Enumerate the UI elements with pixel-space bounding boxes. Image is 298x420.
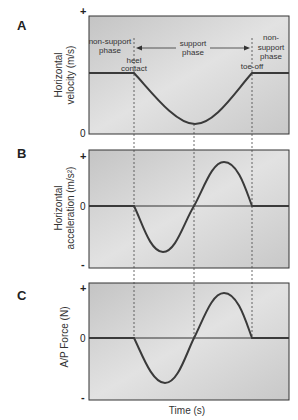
left-phase-label-line2: phase: [99, 46, 121, 55]
panel-a-plot-area: [89, 16, 289, 134]
panel-a: A + 0 Horizontal velocity (m/s) non-supp…: [17, 5, 289, 139]
panel-c-ylabel: A/P Force (N): [59, 307, 70, 368]
panel-a-ylabel-line2: velocity (m/s): [65, 46, 76, 105]
panel-b-plot-area: [89, 150, 289, 268]
panel-c-zero-tick: 0: [80, 333, 86, 344]
support-phase-label-line1: support: [180, 39, 207, 48]
support-phase-label-line2: phase: [182, 48, 204, 57]
panel-b-letter: B: [17, 146, 26, 161]
panel-c-plus-tick: +: [80, 282, 86, 294]
panel-c-minus-tick: -: [81, 391, 85, 403]
panel-b-ylabel-line1: Horizontal: [53, 185, 64, 230]
right-phase-label-line1: non-: [263, 33, 279, 42]
panel-b: B + 0 - Horizontal acceleration (m/s²): [17, 146, 289, 270]
right-phase-label-line2: support: [258, 43, 285, 52]
panel-c-plot-area: [89, 283, 289, 400]
right-phase-label-line3: phase: [260, 52, 282, 61]
x-axis-label: Time (s): [169, 405, 205, 416]
panel-a-ylabel-line1: Horizontal: [53, 52, 64, 97]
gait-diagram: A + 0 Horizontal velocity (m/s) non-supp…: [0, 0, 298, 420]
panel-b-plus-tick: +: [80, 150, 86, 162]
panel-c-letter: C: [17, 288, 27, 303]
panel-b-zero-tick: 0: [80, 201, 86, 212]
panel-a-letter: A: [17, 18, 27, 33]
panel-b-minus-tick: -: [81, 258, 85, 270]
panel-a-zero-tick: 0: [80, 128, 86, 139]
panel-a-plus-tick: +: [80, 5, 86, 17]
panel-c: C + 0 - A/P Force (N): [17, 282, 289, 403]
panel-b-ylabel-line2: acceleration (m/s²): [65, 167, 76, 250]
left-phase-label-line1: non-support: [89, 37, 132, 46]
